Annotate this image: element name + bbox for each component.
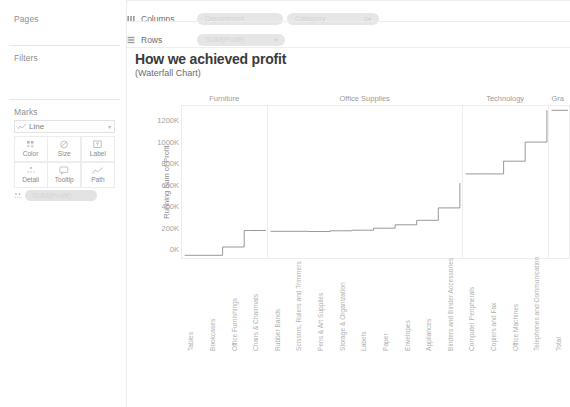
visualization-pane: How we achieved profit (Waterfall Chart)… [127,48,570,407]
marks-detail-label: Detail [22,176,39,183]
filters-card-title: Filters [0,47,126,63]
tableau-worksheet: Pages Filters Marks Line ▾ [0,0,570,407]
y-axis-tick: 200K [137,223,179,232]
rows-icon [127,36,141,44]
columns-shelf[interactable]: Columns Department Category ≡▾ [127,9,570,28]
detail-icon [26,166,36,175]
x-axis-label[interactable]: Total [555,337,562,351]
rows-shelf-label: Rows [141,35,197,45]
y-axis-ticks: 0K200K400K600K800K1000K1200K [127,106,179,258]
x-axis-label[interactable]: Chairs & Chairmats [252,294,259,351]
mark-type-dropdown[interactable]: Line ▾ [14,120,115,133]
columns-pill-category[interactable]: Category ≡▾ [287,13,379,25]
divider [9,99,120,100]
x-axis-label[interactable]: Pens & Art Supplies [317,293,324,351]
y-axis-tick: 800K [137,159,179,168]
x-axis-label[interactable]: Appliances [425,319,432,351]
panel-header-furniture[interactable]: Furniture [181,92,267,106]
marks-field-pill-row[interactable]: SUM(Profit) [14,190,97,201]
x-axis-label[interactable]: Bookcases [209,319,216,351]
marks-color-button[interactable]: Color [14,136,48,163]
size-icon [59,140,69,149]
y-axis-tick: 600K [137,180,179,189]
marks-card: Marks Line ▾ [0,101,126,211]
line-mark-icon [18,124,26,130]
path-icon [92,166,103,175]
chevron-down-icon: ▾ [274,36,277,43]
marks-tooltip-label: Tooltip [55,176,74,183]
rows-pills: SUM(Profit) ▾ [197,34,285,46]
divider [127,21,570,22]
divider [9,45,120,46]
waterfall-line [268,106,463,258]
x-axis-label[interactable]: Office Machines [512,304,519,351]
waterfall-line [463,106,549,258]
x-axis-label[interactable]: Telephones and Communication [533,257,540,351]
marks-size-button[interactable]: Size [47,136,81,163]
pages-card[interactable]: Pages [0,8,126,46]
marks-detail-button[interactable]: Detail [14,162,48,189]
panel-header-technology[interactable]: Technology [462,92,548,106]
panel-gra [548,106,570,258]
x-axis-label[interactable]: Computer Peripherals [468,287,475,351]
y-axis-tick: 400K [137,202,179,211]
y-axis-tick: 1000K [137,137,179,146]
panel-furniture [181,106,267,258]
chart-title: How we achieved profit [135,51,286,67]
x-axis-line [181,258,570,259]
marks-label-button[interactable]: Label [81,136,115,163]
divider [127,0,570,1]
chart-title-block: How we achieved profit (Waterfall Chart) [135,51,286,78]
marks-sum-profit-pill[interactable]: SUM(Profit) [25,190,97,201]
x-axis-label[interactable]: Rubber Bands [274,309,281,351]
y-axis-tick: 1200K [137,116,179,125]
columns-shelf-label: Columns [141,14,197,24]
marks-tooltip-button[interactable]: Tooltip [47,162,81,189]
x-axis-label[interactable]: Binders and Binder Accessories [447,258,454,351]
tooltip-icon [59,166,69,175]
columns-pill-department[interactable]: Department [197,13,283,25]
x-axis-label[interactable]: Scissors, Rulers and Trimmers [295,261,302,351]
pages-card-title: Pages [0,8,126,24]
panel-headers: FurnitureOffice SuppliesTechnologyGra [127,92,570,106]
label-icon [93,140,102,149]
marks-buttons-grid: Color Size [14,136,115,188]
panel-header-office-supplies[interactable]: Office Supplies [267,92,462,106]
left-sidebar: Pages Filters Marks Line ▾ [0,0,126,407]
chart-subtitle: (Waterfall Chart) [135,68,286,78]
x-axis-label[interactable]: Envelopes [404,320,411,351]
waterfall-line [549,106,570,258]
y-axis-tick: 0K [137,245,179,254]
x-axis-label[interactable]: Labels [360,332,367,351]
pill-text: SUM(Profit) [205,35,244,44]
x-axis-label[interactable]: Storage & Organization [339,282,346,351]
detail-handle-icon [14,192,22,200]
filters-card[interactable]: Filters [0,47,126,100]
x-axis-label[interactable]: Tables [187,332,194,351]
chevron-down-icon: ▾ [108,123,111,130]
waterfall-line [182,106,268,258]
x-axis-label[interactable]: Paper [382,333,389,351]
x-axis-labels: TablesBookcasesOffice FurnishingsChairs … [181,260,570,355]
marks-path-label: Path [91,176,105,183]
marks-path-button[interactable]: Path [81,162,115,189]
panel-technology [462,106,548,258]
columns-pills: Department Category ≡▾ [197,13,379,25]
color-icon [26,140,35,149]
rows-pill-sum-profit[interactable]: SUM(Profit) ▾ [197,34,285,46]
marks-size-label: Size [58,150,71,157]
panel-office-supplies [267,106,462,258]
chart-panels [181,106,570,258]
plot-area: Running Sum of Profit 0K200K400K600K800K… [127,106,570,258]
shelves-region: Columns Department Category ≡▾ R [127,0,570,48]
panel-header-gra[interactable]: Gra [548,92,570,106]
marks-color-label: Color [23,150,39,157]
x-axis-label[interactable]: Copiers and Fax [490,303,497,351]
mark-type-label: Line [29,122,108,131]
marks-card-title: Marks [0,101,126,117]
marks-label-label: Label [90,150,106,157]
x-axis-label[interactable]: Office Furnishings [231,298,238,351]
